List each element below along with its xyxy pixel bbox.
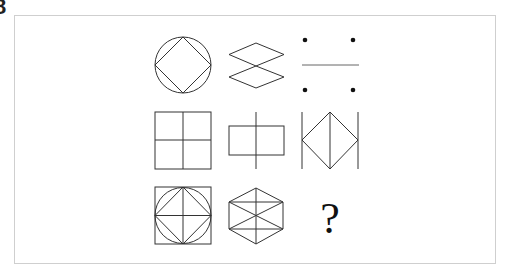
circle-shape [155,37,211,93]
missing-cell-question-mark: ? [320,194,340,243]
dot-bottom-right [351,88,356,93]
cell-two-stacked-rhombi [229,43,284,88]
cell-four-dots-with-line [302,38,359,93]
rhombus-bottom [229,66,284,88]
dot-top-left [303,38,308,43]
cell-square-with-cross [155,112,211,169]
cell-circle-with-inscribed-diamond [155,37,211,93]
rhombus-top [229,43,284,66]
cell-square-circle-diamond-cross [155,187,211,244]
cell-diamond-between-verticals [302,112,358,169]
cell-hexagon-with-diagonals [229,188,283,244]
cell-rectangle-with-vertical-line [229,112,284,169]
dot-top-right [351,38,356,43]
dot-bottom-left [303,88,308,93]
puzzle-grid: ? [0,0,510,272]
